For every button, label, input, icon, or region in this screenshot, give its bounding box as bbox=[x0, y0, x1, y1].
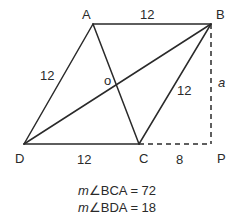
intersection-label-o: o bbox=[104, 73, 111, 88]
length-label-dc: 12 bbox=[77, 152, 91, 167]
diagonal-ac bbox=[93, 24, 139, 144]
angle-bda-text: ∠BDA = 18 bbox=[89, 200, 156, 215]
length-label-cp: 8 bbox=[176, 152, 183, 167]
length-label-bp: a bbox=[218, 75, 225, 90]
side-bc bbox=[139, 24, 211, 144]
vertex-label-c: C bbox=[139, 151, 148, 166]
given-angle-bca: m∠BCA = 72 bbox=[0, 183, 234, 198]
measure-symbol: m bbox=[78, 200, 89, 215]
vertex-label-b: B bbox=[216, 7, 225, 22]
length-label-bc: 12 bbox=[177, 83, 191, 98]
vertex-label-a: A bbox=[82, 7, 91, 22]
length-label-ab: 12 bbox=[140, 7, 154, 22]
length-label-ad: 12 bbox=[40, 68, 54, 83]
measure-symbol: m bbox=[78, 183, 89, 198]
angle-bca-text: ∠BCA = 72 bbox=[89, 183, 156, 198]
vertex-label-d: D bbox=[15, 151, 24, 166]
side-ad bbox=[24, 24, 93, 144]
vertex-label-p: P bbox=[217, 151, 226, 166]
given-angle-bda: m∠BDA = 18 bbox=[0, 200, 234, 215]
